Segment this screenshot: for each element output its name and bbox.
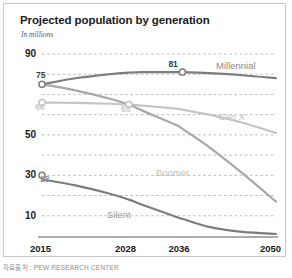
point-label-65: 65 bbox=[121, 104, 130, 114]
source-caption: 자료출처 : PEW RESEARCH CENTER bbox=[3, 262, 286, 274]
series-label-genx: Gen X bbox=[218, 111, 245, 122]
chart-figure: Projected population by generation In mi… bbox=[0, 0, 292, 278]
point-label-75: 75 bbox=[36, 70, 45, 80]
series-line-silent bbox=[42, 179, 276, 234]
series-label-silent: Silent bbox=[107, 209, 131, 220]
x-tick-label: 2050 bbox=[260, 243, 281, 254]
y-tick-label: 10 bbox=[14, 210, 36, 221]
y-tick-label: 30 bbox=[14, 169, 36, 180]
chart-card: Projected population by generation In mi… bbox=[3, 3, 286, 257]
plot-area bbox=[4, 4, 286, 257]
x-tick-label: 2036 bbox=[168, 243, 189, 254]
data-point-marker bbox=[39, 81, 45, 87]
data-point-marker bbox=[179, 69, 185, 75]
y-tick-label: 90 bbox=[14, 48, 36, 59]
point-label-28: 28 bbox=[40, 174, 49, 184]
x-tick-label: 2028 bbox=[115, 243, 136, 254]
series-lines-group bbox=[42, 72, 276, 234]
x-tick-label: 2015 bbox=[30, 243, 51, 254]
point-label-66: 66 bbox=[35, 102, 44, 112]
series-label-millennial: Millennial bbox=[216, 60, 256, 71]
point-label-81: 81 bbox=[168, 59, 177, 69]
series-label-boomer: Boomer bbox=[156, 167, 189, 178]
data-markers-group bbox=[39, 69, 186, 178]
y-tick-label: 50 bbox=[14, 129, 36, 140]
